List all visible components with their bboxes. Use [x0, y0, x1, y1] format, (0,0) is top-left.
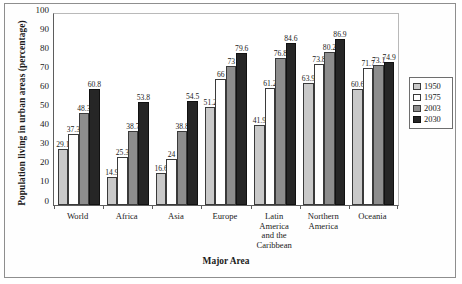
bar[interactable]: 76.8	[275, 58, 286, 205]
bar-value-label: 84.6	[284, 35, 297, 43]
y-axis-tick-label: 50	[23, 101, 49, 110]
x-axis-category-label: Asia	[151, 212, 200, 222]
x-axis-category-label-line: America	[299, 222, 348, 232]
bar[interactable]: 29.1	[58, 149, 69, 205]
x-axis-tick	[103, 205, 104, 209]
bar[interactable]: 14.9	[107, 177, 118, 205]
legend-item[interactable]: 1950	[413, 81, 449, 92]
bar-group: 14.925.338.753.8	[103, 14, 152, 205]
bar-group-bars: 63.973.880.286.9	[300, 14, 349, 205]
legend-label: 1975	[424, 93, 441, 102]
bar[interactable]: 24	[166, 159, 177, 205]
bar-group-bars: 16.62438.854.5	[152, 14, 201, 205]
bar[interactable]: 51.2	[205, 107, 216, 205]
bar-group: 41.961.276.884.6	[251, 14, 300, 205]
y-axis-tick-label: 80	[23, 44, 49, 53]
bar[interactable]: 61.2	[265, 88, 276, 205]
bar[interactable]: 73.8	[314, 64, 325, 205]
x-axis-title: Major Area	[53, 256, 399, 266]
x-axis-category-label-line: Oceania	[348, 212, 397, 222]
bar[interactable]: 79.6	[236, 53, 247, 205]
legend-item[interactable]: 2003	[413, 103, 449, 114]
bar[interactable]: 38.8	[177, 131, 188, 205]
x-axis-tick	[397, 205, 398, 209]
x-axis-tick	[54, 205, 55, 209]
bar[interactable]: 41.9	[254, 125, 265, 205]
bar-group-bars: 60.671.773.174.9	[349, 14, 398, 205]
x-axis-tick	[201, 205, 202, 209]
bar[interactable]: 16.6	[156, 173, 167, 205]
bar-value-label: 66	[217, 71, 225, 79]
x-axis-category-label: NorthernAmerica	[299, 212, 348, 231]
x-axis-category-label: LatinAmericaand theCaribbean	[250, 212, 299, 250]
bar-value-label: 24	[168, 151, 176, 159]
bar[interactable]: 80.2	[324, 52, 335, 205]
y-axis-tick-label: 90	[23, 25, 49, 34]
bar-value-label: 74.9	[383, 54, 396, 62]
bar-value-label: 54.5	[186, 93, 199, 101]
y-axis-tick-label: 20	[23, 158, 49, 167]
x-axis-category-label: World	[53, 212, 102, 222]
legend-label: 2030	[424, 115, 441, 124]
bar-group-bars: 14.925.338.753.8	[103, 14, 152, 205]
bar[interactable]: 86.9	[335, 39, 346, 205]
bars-layer: 29.137.348.360.814.925.338.753.816.62438…	[54, 14, 398, 205]
x-axis-category-label: Europe	[200, 212, 249, 222]
bar[interactable]: 54.5	[187, 101, 198, 205]
plot-area: 29.137.348.360.814.925.338.753.816.62438…	[53, 13, 399, 206]
bar[interactable]: 38.7	[128, 131, 139, 205]
bar[interactable]: 25.3	[117, 157, 128, 205]
x-axis-category-label-line: Africa	[102, 212, 151, 222]
legend-label: 1950	[424, 82, 441, 91]
y-axis-tick-labels: 1009080706050403020100	[23, 10, 49, 209]
bar[interactable]: 60.8	[89, 89, 100, 205]
bar-value-label: 60.8	[88, 81, 101, 89]
legend-swatch-icon	[413, 116, 421, 123]
legend-label: 2003	[424, 104, 441, 113]
x-axis-tick	[152, 205, 153, 209]
figure-frame: Population living in urban areas (percen…	[4, 3, 456, 278]
bar[interactable]: 53.8	[138, 102, 149, 205]
legend-swatch-icon	[413, 94, 421, 101]
bar[interactable]: 63.9	[303, 83, 314, 205]
x-axis-category-label-line: World	[53, 212, 102, 222]
bar-group: 63.973.880.286.9	[300, 14, 349, 205]
x-axis-tick	[300, 205, 301, 209]
bar-group-bars: 29.137.348.360.8	[54, 14, 103, 205]
y-axis-tick-label: 60	[23, 82, 49, 91]
legend-swatch-icon	[413, 105, 421, 112]
bar[interactable]: 37.3	[68, 134, 79, 205]
bar[interactable]: 66	[215, 79, 226, 205]
bar-value-label: 73	[227, 58, 235, 66]
x-axis-tick	[349, 205, 350, 209]
x-axis-tick	[251, 205, 252, 209]
bar-group: 60.671.773.174.9	[349, 14, 398, 205]
y-axis-tick-label: 0	[23, 197, 49, 206]
bar-value-label: 53.8	[137, 94, 150, 102]
bar-value-label: 79.6	[235, 45, 248, 53]
bar[interactable]: 73.1	[373, 65, 384, 205]
chart-legend: 1950197520032030	[409, 77, 453, 129]
y-axis-tick-label: 100	[23, 6, 49, 15]
bar-value-label: 86.9	[333, 31, 346, 39]
legend-item[interactable]: 2030	[413, 114, 449, 125]
bar[interactable]: 84.6	[286, 43, 297, 205]
x-axis-category-labels: WorldAfricaAsiaEuropeLatinAmericaand the…	[53, 212, 399, 262]
x-axis-category-label-line: Caribbean	[250, 241, 299, 251]
x-axis-category-label: Africa	[102, 212, 151, 222]
x-axis-category-label-line: Europe	[200, 212, 249, 222]
legend-item[interactable]: 1975	[413, 92, 449, 103]
x-axis-category-label-line: Asia	[151, 212, 200, 222]
bar-group: 29.137.348.360.8	[54, 14, 103, 205]
bar[interactable]: 71.7	[363, 68, 374, 205]
bar[interactable]: 74.9	[384, 62, 395, 205]
legend-swatch-icon	[413, 83, 421, 90]
bar[interactable]: 73	[226, 66, 237, 205]
y-axis-tick-label: 70	[23, 63, 49, 72]
y-axis-tick-label: 30	[23, 139, 49, 148]
bar[interactable]: 60.6	[352, 89, 363, 205]
bar-group: 51.2667379.6	[201, 14, 250, 205]
y-axis-tick-label: 40	[23, 120, 49, 129]
bar-group-bars: 51.2667379.6	[201, 14, 250, 205]
bar[interactable]: 48.3	[79, 113, 90, 205]
